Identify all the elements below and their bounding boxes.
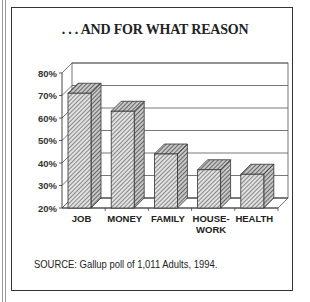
bar-health (241, 164, 274, 208)
bar-family (154, 144, 187, 208)
bar-front (111, 111, 134, 208)
source-note: SOURCE: Gallup poll of 1,011 Adults, 199… (34, 258, 217, 270)
bar-front (68, 93, 91, 208)
bar-front (198, 170, 221, 208)
bar-job (68, 83, 101, 208)
bar-side (177, 144, 187, 208)
x-category-label: JOB (72, 213, 92, 224)
bar-chart: 80%70%60%50%40%30%20%JOBMONEYFAMILYHOUSE… (0, 0, 310, 302)
x-category-label: HOUSE- (193, 213, 230, 224)
y-tick-label: 20% (38, 203, 58, 214)
bar-money (111, 101, 144, 208)
gridline-side (62, 63, 72, 73)
y-tick-label: 70% (38, 90, 58, 101)
y-tick-label: 60% (38, 113, 58, 124)
x-category-label: MONEY (107, 213, 143, 224)
x-category-label: FAMILY (151, 213, 186, 224)
bar-front (154, 154, 177, 208)
chart-bars (68, 83, 274, 208)
x-category-label: WORK (196, 224, 226, 235)
bar-side (91, 83, 101, 208)
y-tick-label: 30% (38, 180, 58, 191)
y-tick-label: 80% (38, 68, 58, 79)
bar-house-work (198, 160, 231, 208)
bar-front (241, 174, 264, 208)
y-tick-label: 50% (38, 135, 58, 146)
y-tick-label: 40% (38, 158, 58, 169)
x-category-label: HEALTH (235, 213, 273, 224)
bar-side (134, 101, 144, 208)
